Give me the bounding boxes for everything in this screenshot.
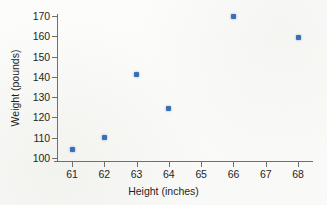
x-axis-title: Height (inches) bbox=[0, 185, 327, 197]
x-axis-tick-label: 67 bbox=[252, 169, 280, 180]
y-axis-title-container: Weight (pounds) bbox=[6, 0, 24, 175]
y-axis-tick bbox=[52, 16, 57, 17]
y-axis-tick bbox=[52, 97, 57, 98]
x-axis-tick bbox=[298, 162, 299, 167]
x-axis-tick-label: 64 bbox=[155, 169, 183, 180]
y-axis-title: Weight (pounds) bbox=[9, 49, 21, 126]
y-axis-tick bbox=[52, 77, 57, 78]
y-axis-tick bbox=[52, 36, 57, 37]
y-axis-tick bbox=[52, 158, 57, 159]
x-axis-tick bbox=[266, 162, 267, 167]
plot-area: 100110120130140150160170 616263646566676… bbox=[0, 0, 327, 205]
x-axis-tick-label: 61 bbox=[58, 169, 86, 180]
x-axis-tick bbox=[104, 162, 105, 167]
x-axis-tick bbox=[201, 162, 202, 167]
x-axis-tick-label: 66 bbox=[219, 169, 247, 180]
x-axis-tick bbox=[137, 162, 138, 167]
y-axis-tick bbox=[52, 57, 57, 58]
y-axis-tick bbox=[52, 117, 57, 118]
scatter-plot-screenshot: 100110120130140150160170 616263646566676… bbox=[0, 0, 327, 205]
x-axis-line bbox=[54, 161, 313, 162]
x-axis-tick-label: 63 bbox=[123, 169, 151, 180]
data-point bbox=[231, 14, 236, 19]
data-point bbox=[102, 135, 107, 140]
data-point bbox=[296, 35, 301, 40]
y-axis-line bbox=[57, 14, 58, 162]
x-axis-tick bbox=[169, 162, 170, 167]
data-point bbox=[134, 72, 139, 77]
x-axis-tick bbox=[233, 162, 234, 167]
y-axis-tick bbox=[52, 138, 57, 139]
x-axis-tick-label: 68 bbox=[284, 169, 312, 180]
x-axis-tick bbox=[72, 162, 73, 167]
x-axis-tick-label: 62 bbox=[90, 169, 118, 180]
data-point bbox=[70, 147, 75, 152]
data-point bbox=[166, 106, 171, 111]
x-axis-tick-label: 65 bbox=[187, 169, 215, 180]
